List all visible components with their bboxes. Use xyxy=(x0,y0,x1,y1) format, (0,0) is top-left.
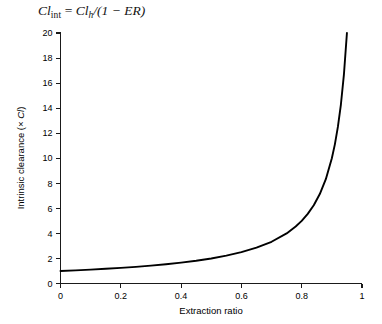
x-tick-label: 0.6 xyxy=(235,291,248,301)
y-tick-label: 4 xyxy=(47,229,52,239)
y-tick-label: 20 xyxy=(42,28,52,38)
chart-plot: 02468101214161820 00.20.40.60.81 Extract… xyxy=(0,0,382,324)
x-axis-ticks xyxy=(61,284,363,289)
x-tick-label: 0.2 xyxy=(115,291,128,301)
y-axis-ticks xyxy=(56,33,61,284)
y-tick-label: 18 xyxy=(42,53,52,63)
y-tick-label: 10 xyxy=(42,153,52,163)
y-axis-title: Intrinsic clearance (× Cl) xyxy=(15,107,26,210)
x-axis-tick-labels: 00.20.40.60.81 xyxy=(58,291,365,301)
x-tick-label: 0 xyxy=(58,291,63,301)
y-axis: 02468101214161820 xyxy=(42,28,60,289)
y-tick-label: 8 xyxy=(47,179,52,189)
x-tick-label: 1 xyxy=(359,291,364,301)
x-tick-label: 0.8 xyxy=(295,291,308,301)
x-axis-title: Extraction ratio xyxy=(179,305,242,316)
y-tick-label: 12 xyxy=(42,128,52,138)
y-tick-label: 14 xyxy=(42,103,52,113)
y-tick-label: 16 xyxy=(42,78,52,88)
y-tick-label: 6 xyxy=(47,204,52,214)
y-tick-label: 2 xyxy=(47,254,52,264)
x-tick-label: 0.4 xyxy=(175,291,188,301)
y-tick-label: 0 xyxy=(47,279,52,289)
data-curve xyxy=(61,33,347,271)
x-axis: 00.20.40.60.81 xyxy=(58,284,365,301)
y-axis-tick-labels: 02468101214161820 xyxy=(42,28,52,289)
figure-container: Clint = Clh/(1 − ER) 02468101214161820 0… xyxy=(0,0,382,324)
